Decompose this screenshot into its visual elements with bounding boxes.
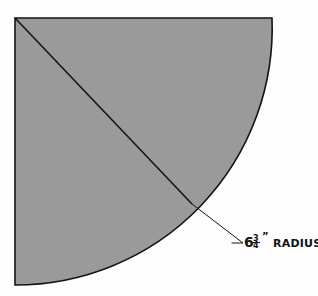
callout-inch-mark: ”	[262, 231, 269, 242]
diagram-root: 6 3 4 ” RADIUS	[0, 0, 318, 296]
radius-callout: 6 3 4 ” RADIUS	[244, 231, 318, 250]
quarter-circle-diagram: 6 3 4 ” RADIUS	[0, 0, 318, 296]
callout-fraction-denominator: 4	[253, 241, 259, 250]
leader-line	[192, 204, 243, 243]
callout-term-radius: RADIUS	[273, 237, 318, 250]
